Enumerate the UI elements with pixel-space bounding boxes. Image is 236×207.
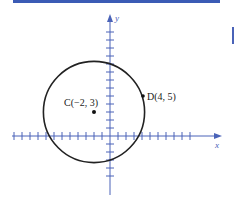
x-axis-label: x (214, 140, 219, 150)
center-point-c (92, 110, 96, 114)
y-axis-arrow-icon (107, 14, 113, 22)
center-point-label: C(−2, 3) (64, 97, 98, 109)
point-d-label: D(4, 5) (147, 91, 176, 103)
point-d (141, 94, 145, 98)
x-axis: x (12, 132, 222, 150)
coordinate-diagram: x y C(−2, 3) (0, 0, 236, 207)
y-axis: y (106, 13, 119, 195)
y-axis-label: y (114, 13, 119, 23)
x-axis-arrow-icon (214, 133, 222, 139)
